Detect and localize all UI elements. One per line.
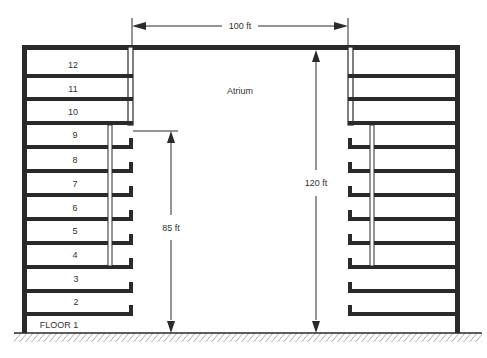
floor-label: 12 xyxy=(68,60,78,70)
ground xyxy=(14,333,482,342)
floor-label: 10 xyxy=(68,107,78,117)
floor-label: 2 xyxy=(73,297,78,307)
floor-label: 11 xyxy=(68,84,77,94)
floor-label: 6 xyxy=(72,203,77,213)
floor-label: 8 xyxy=(72,155,77,165)
floor-label: 7 xyxy=(72,179,77,189)
atrium-section-diagram: 100 ft Atrium 120 ft 85 ft 12 11 10 9 8 … xyxy=(0,0,487,358)
atrium-label: Atrium xyxy=(227,86,253,96)
right-wing xyxy=(348,47,458,316)
floor-label: FLOOR 1 xyxy=(40,320,79,330)
floor-label: 3 xyxy=(73,274,78,284)
lower-height-dimension-label: 85 ft xyxy=(160,223,182,233)
height-dimension xyxy=(312,50,320,333)
width-dimension-label: 100 ft xyxy=(227,21,254,31)
floor-label: 4 xyxy=(72,250,77,260)
floor-label: 9 xyxy=(72,130,77,140)
height-dimension-label: 120 ft xyxy=(303,178,330,188)
roof-slab xyxy=(22,45,460,50)
floor-label: 5 xyxy=(72,226,77,236)
